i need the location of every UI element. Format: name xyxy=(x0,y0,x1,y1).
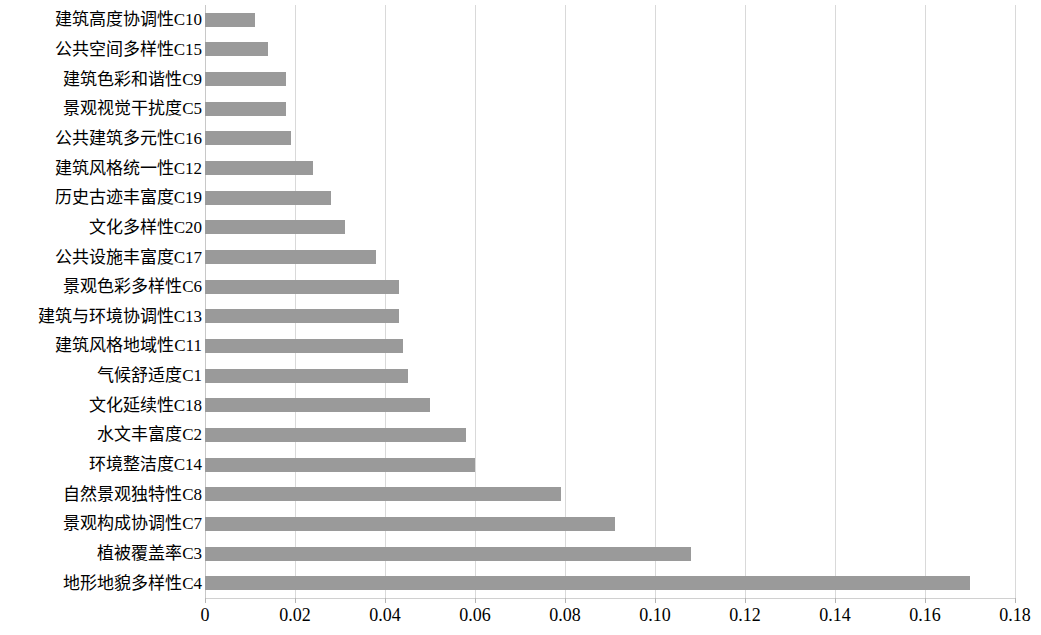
x-tick-mark xyxy=(745,598,746,603)
x-tick-label: 0.04 xyxy=(369,604,401,626)
category-label: 文化多样性C20 xyxy=(2,219,202,236)
x-tick-label: 0.02 xyxy=(279,604,311,626)
x-tick-label: 0.12 xyxy=(729,604,761,626)
bar xyxy=(205,339,403,353)
x-tick-mark xyxy=(295,598,296,603)
bar-row xyxy=(205,568,1015,598)
x-tick-mark xyxy=(475,598,476,603)
bar-chart: 建筑高度协调性C10公共空间多样性C15建筑色彩和谐性C9景观视觉干扰度C5公共… xyxy=(0,0,1041,635)
x-tick-label: 0.18 xyxy=(999,604,1031,626)
bar xyxy=(205,428,466,442)
x-tick-label: 0.10 xyxy=(639,604,671,626)
bar-row xyxy=(205,94,1015,124)
bar-row xyxy=(205,35,1015,65)
bar-row xyxy=(205,450,1015,480)
x-tick-label: 0.06 xyxy=(459,604,491,626)
bar xyxy=(205,458,475,472)
bar-row xyxy=(205,509,1015,539)
bar-row xyxy=(205,183,1015,213)
bar-row xyxy=(205,390,1015,420)
x-tick-label: 0.14 xyxy=(819,604,851,626)
x-tick-mark xyxy=(385,598,386,603)
bar-row xyxy=(205,64,1015,94)
bar xyxy=(205,280,399,294)
category-label: 建筑高度协调性C10 xyxy=(2,11,202,28)
bar-row xyxy=(205,213,1015,243)
bar xyxy=(205,220,345,234)
bar xyxy=(205,102,286,116)
bar xyxy=(205,517,615,531)
x-tick-mark xyxy=(835,598,836,603)
bar-row xyxy=(205,5,1015,35)
bar xyxy=(205,72,286,86)
category-label: 建筑色彩和谐性C9 xyxy=(2,71,202,88)
category-axis-labels: 建筑高度协调性C10公共空间多样性C15建筑色彩和谐性C9景观视觉干扰度C5公共… xyxy=(0,5,202,598)
x-tick-mark xyxy=(565,598,566,603)
bar xyxy=(205,161,313,175)
category-label: 文化延续性C18 xyxy=(2,397,202,414)
category-label: 建筑与环境协调性C13 xyxy=(2,308,202,325)
bar xyxy=(205,547,691,561)
category-label: 公共设施丰富度C17 xyxy=(2,249,202,266)
x-tick-label: 0 xyxy=(201,604,210,626)
category-label: 公共空间多样性C15 xyxy=(2,41,202,58)
bar-row xyxy=(205,539,1015,569)
category-label: 环境整洁度C14 xyxy=(2,456,202,473)
category-label: 气候舒适度C1 xyxy=(2,367,202,384)
x-tick-mark xyxy=(925,598,926,603)
bar-row xyxy=(205,479,1015,509)
category-label: 景观构成协调性C7 xyxy=(2,515,202,532)
category-label: 地形地貌多样性C4 xyxy=(2,575,202,592)
x-axis-labels: 00.020.040.060.080.100.120.140.160.18 xyxy=(0,602,1041,632)
bar-row xyxy=(205,361,1015,391)
bar xyxy=(205,13,255,27)
bar-row xyxy=(205,124,1015,154)
bar xyxy=(205,309,399,323)
x-axis-line xyxy=(205,598,1015,599)
bar xyxy=(205,42,268,56)
bar-row xyxy=(205,302,1015,332)
bar xyxy=(205,487,561,501)
bar-row xyxy=(205,331,1015,361)
bar-row xyxy=(205,420,1015,450)
bar xyxy=(205,250,376,264)
category-label: 历史古迹丰富度C19 xyxy=(2,189,202,206)
category-label: 景观视觉干扰度C5 xyxy=(2,100,202,117)
category-label: 自然景观独特性C8 xyxy=(2,486,202,503)
bar xyxy=(205,369,408,383)
category-label: 建筑风格统一性C12 xyxy=(2,160,202,177)
category-label: 建筑风格地域性C11 xyxy=(2,337,202,354)
plot-area xyxy=(205,5,1015,598)
bar-row xyxy=(205,153,1015,183)
category-label: 公共建筑多元性C16 xyxy=(2,130,202,147)
bar-row xyxy=(205,242,1015,272)
category-label: 植被覆盖率C3 xyxy=(2,545,202,562)
x-tick-mark xyxy=(655,598,656,603)
x-tick-label: 0.16 xyxy=(909,604,941,626)
bar xyxy=(205,191,331,205)
bar xyxy=(205,398,430,412)
category-label: 景观色彩多样性C6 xyxy=(2,278,202,295)
bar xyxy=(205,576,970,590)
x-tick-label: 0.08 xyxy=(549,604,581,626)
gridline xyxy=(1015,5,1016,598)
bar-row xyxy=(205,272,1015,302)
category-label: 水文丰富度C2 xyxy=(2,426,202,443)
x-tick-mark xyxy=(205,598,206,603)
x-tick-mark xyxy=(1015,598,1016,603)
bar xyxy=(205,131,291,145)
